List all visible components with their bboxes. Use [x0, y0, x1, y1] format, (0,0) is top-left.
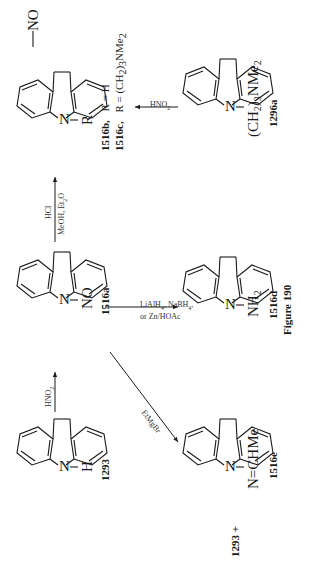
reagent-hcl: HCl: [45, 206, 53, 219]
compound-label-1516a: 1516a: [100, 288, 111, 316]
variant-1516c: 1516c, R = (CH2)3NMe2: [114, 33, 128, 151]
variant-1516b: 1516b, R = H: [100, 84, 111, 151]
reagent-reduction: LiAlH4, NaBH4, or Zn/HOAc: [140, 301, 193, 321]
arrow-1516a-to-1516e: [110, 352, 178, 442]
compound-label-1296a: 1296a: [268, 100, 279, 128]
compound-label-1516e: 1516e: [268, 452, 279, 479]
substituent-1516e: N=CHMe: [246, 429, 261, 489]
reagent-meoh-et2o: MeOH, Et2O: [58, 193, 68, 235]
substituent-1516bc: R: [80, 115, 95, 125]
n-atom-1516d: N: [225, 297, 236, 312]
ring-substituent-no: NO: [26, 9, 41, 31]
n-atom-1516bc: N: [59, 112, 70, 127]
substituent-1296a: (CH2)3NMe2: [246, 60, 263, 137]
n-atom-1516a: N: [59, 292, 70, 307]
substituent-1293: H: [80, 461, 95, 472]
substituent-1516a: NO: [80, 287, 95, 309]
reaction-scheme: N N N N N N H NO R NO (CH2)3NMe2 NH2 N=C…: [0, 0, 315, 587]
figure-caption: Figure 190: [282, 285, 293, 335]
substituent-1516d: NH2: [246, 290, 263, 317]
n-atom-1516e: N: [225, 459, 236, 474]
coproduct-label-1293: 1293 +: [230, 526, 241, 557]
reagent-hno2-nitrosation: HNO2: [45, 387, 55, 407]
compound-label-1293: 1293: [100, 459, 111, 481]
reagent-hno2-1296a: HNO2: [150, 101, 170, 111]
n-atom-1296a: N: [225, 99, 236, 114]
n-atom-1293: N: [59, 459, 70, 474]
compound-label-1516d: 1516d: [268, 291, 279, 319]
